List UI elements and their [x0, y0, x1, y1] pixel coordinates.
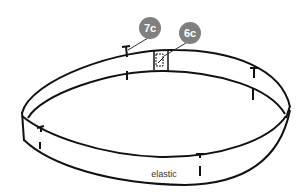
callout-7c-label: 7c: [144, 22, 156, 34]
mark-front-right: [196, 154, 204, 176]
band-inner-top-edge: [28, 71, 285, 118]
join-patch: [154, 50, 168, 71]
elastic-label: elastic: [151, 169, 177, 179]
callout-6c-label: 6c: [184, 27, 196, 39]
elastic-ring-diagram: 7c 6c elastic: [0, 0, 307, 196]
band-outer-top-edge: [22, 50, 290, 113]
callout-7c: 7c: [128, 17, 161, 50]
band-front-upper-edge: [22, 116, 286, 157]
mark-back-right: [250, 68, 258, 100]
